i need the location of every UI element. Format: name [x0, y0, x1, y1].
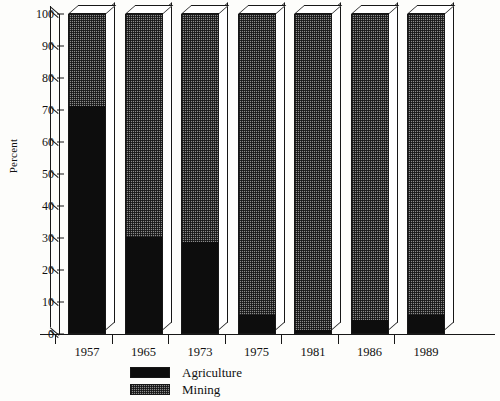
x-tick-label-1965: 1965	[131, 345, 156, 360]
bar-side-face-1973	[219, 2, 228, 330]
bar-segment-1981-agriculture	[295, 330, 331, 333]
bar-segment-1975-agriculture	[239, 315, 275, 333]
legend-label-mining: Mining	[182, 383, 220, 396]
bar-segment-1973-agriculture	[182, 242, 218, 333]
bar-side-face-1975	[276, 2, 285, 330]
x-tick-label-1957: 1957	[75, 345, 100, 360]
x-tick-label-1973: 1973	[188, 345, 213, 360]
bar-1973[interactable]	[181, 14, 219, 334]
x-tick-mark-1973	[168, 335, 169, 344]
bar-1975[interactable]	[238, 14, 276, 334]
bar-1986[interactable]	[351, 14, 389, 334]
legend-item-mining: Mining	[130, 381, 242, 397]
stacked-bar-chart: Percent 0102030405060708090100 195719651…	[0, 0, 500, 401]
bar-side-face-1981	[332, 2, 341, 330]
x-tick-mark-1986	[338, 335, 339, 344]
bar-side-face-1989	[445, 2, 454, 330]
legend-item-agriculture: Agriculture	[130, 364, 242, 380]
legend-swatch-agriculture	[130, 367, 170, 378]
plot-area: 1957196519731975198119861989	[0, 0, 500, 401]
bar-1965[interactable]	[125, 14, 163, 334]
bar-segment-1957-agriculture	[69, 106, 105, 333]
bar-side-face-1957	[106, 2, 115, 330]
bar-segment-1989-mining	[408, 14, 444, 315]
bar-segment-1986-agriculture	[352, 320, 388, 333]
bar-segment-1981-mining	[295, 14, 331, 330]
x-tick-label-1989: 1989	[414, 345, 439, 360]
x-tick-mark-1989	[394, 335, 395, 344]
x-tick-label-1975: 1975	[244, 345, 269, 360]
bar-segment-1973-mining	[182, 14, 218, 242]
legend-swatch-mining	[130, 384, 170, 395]
x-tick-mark-1975	[225, 335, 226, 344]
bar-1981[interactable]	[294, 14, 332, 334]
bar-segment-1965-agriculture	[126, 237, 162, 333]
bar-side-face-1965	[163, 2, 172, 330]
x-tick-label-1986: 1986	[357, 345, 382, 360]
bar-segment-1986-mining	[352, 14, 388, 320]
x-tick-mark-1957	[55, 335, 56, 344]
x-tick-label-1981: 1981	[301, 345, 326, 360]
bar-1989[interactable]	[407, 14, 445, 334]
x-tick-mark-1981	[281, 335, 282, 344]
x-tick-mark-1965	[112, 335, 113, 344]
bar-side-face-1986	[389, 2, 398, 330]
legend: Agriculture Mining	[130, 364, 242, 398]
bar-segment-1989-agriculture	[408, 315, 444, 333]
bar-1957[interactable]	[68, 14, 106, 334]
legend-label-agriculture: Agriculture	[182, 366, 242, 379]
bar-segment-1975-mining	[239, 14, 275, 315]
bar-segment-1965-mining	[126, 14, 162, 237]
bar-segment-1957-mining	[69, 14, 105, 106]
